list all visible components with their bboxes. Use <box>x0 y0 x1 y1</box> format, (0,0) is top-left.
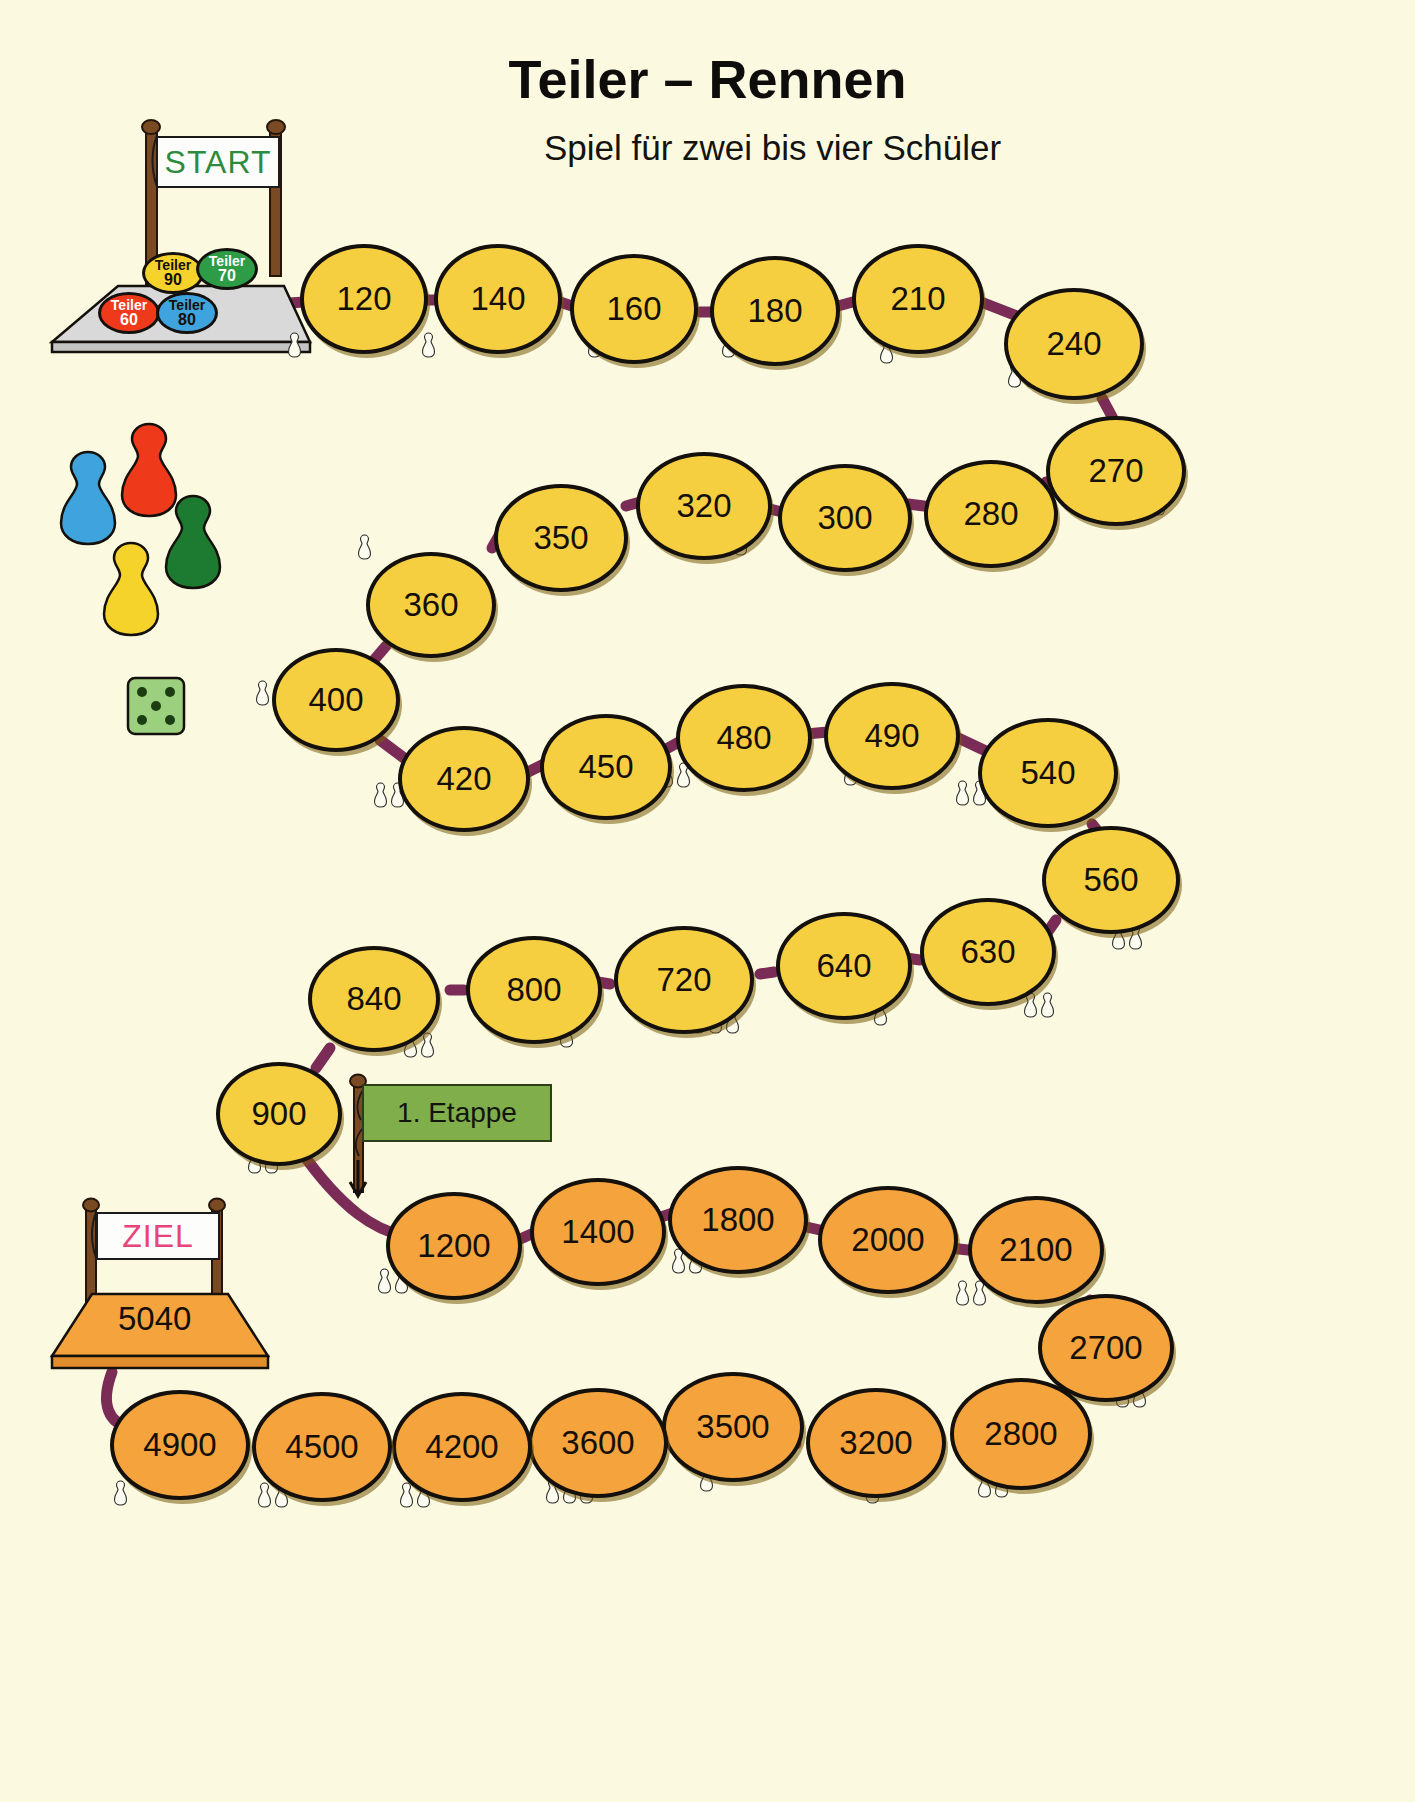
board-node-490[interactable]: 490 <box>824 682 960 790</box>
board-node-420[interactable]: 420 <box>398 726 530 832</box>
board-node-1200[interactable]: 1200 <box>386 1192 522 1300</box>
board-node-1400[interactable]: 1400 <box>530 1178 666 1286</box>
board-node-400[interactable]: 400 <box>272 648 400 752</box>
board-node-640[interactable]: 640 <box>776 912 912 1020</box>
board-node-120[interactable]: 120 <box>300 244 428 354</box>
board-node-2000[interactable]: 2000 <box>818 1186 958 1294</box>
board-node-720[interactable]: 720 <box>614 926 754 1034</box>
board-node-3500[interactable]: 3500 <box>662 1372 804 1482</box>
game-board: START Teiler 90 Teiler 70 Teiler 60 Teil… <box>0 0 1415 1802</box>
board-node-140[interactable]: 140 <box>434 244 562 354</box>
board-node-480[interactable]: 480 <box>676 684 812 792</box>
board-node-4200[interactable]: 4200 <box>392 1392 532 1502</box>
board-node-630[interactable]: 630 <box>920 898 1056 1006</box>
board-node-350[interactable]: 350 <box>494 484 628 592</box>
board-nodes: 1201401601802102402702803003203503604004… <box>0 0 1415 1802</box>
board-node-3200[interactable]: 3200 <box>806 1388 946 1498</box>
board-node-900[interactable]: 900 <box>216 1062 342 1166</box>
board-node-4900[interactable]: 4900 <box>110 1390 250 1500</box>
board-node-2800[interactable]: 2800 <box>950 1378 1092 1490</box>
board-node-280[interactable]: 280 <box>924 460 1058 568</box>
board-node-360[interactable]: 360 <box>366 552 496 658</box>
board-node-240[interactable]: 240 <box>1004 288 1144 400</box>
board-node-3600[interactable]: 3600 <box>528 1388 668 1498</box>
board-node-1800[interactable]: 1800 <box>668 1166 808 1274</box>
board-node-320[interactable]: 320 <box>636 452 772 560</box>
board-node-180[interactable]: 180 <box>710 256 840 366</box>
board-node-560[interactable]: 560 <box>1042 826 1180 934</box>
board-node-2100[interactable]: 2100 <box>968 1196 1104 1304</box>
board-node-800[interactable]: 800 <box>466 936 602 1044</box>
board-node-840[interactable]: 840 <box>308 946 440 1052</box>
board-node-450[interactable]: 450 <box>540 714 672 820</box>
board-node-300[interactable]: 300 <box>778 464 912 572</box>
board-node-160[interactable]: 160 <box>570 254 698 364</box>
board-node-270[interactable]: 270 <box>1046 416 1186 526</box>
board-node-540[interactable]: 540 <box>978 718 1118 828</box>
board-node-210[interactable]: 210 <box>852 244 984 354</box>
board-node-4500[interactable]: 4500 <box>252 1392 392 1502</box>
